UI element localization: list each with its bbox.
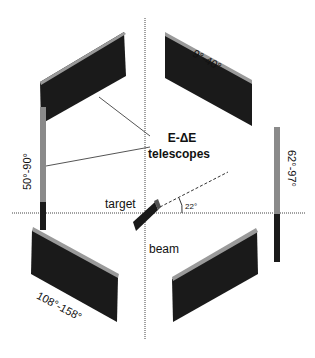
detector-right-vertical (274, 127, 280, 262)
pointer-line-upper (99, 97, 150, 136)
target-label: target (105, 198, 136, 210)
detector-top-right (165, 32, 252, 126)
detector-right-vertical-label: 62°-97° (286, 150, 297, 187)
angle-label: 22° (185, 203, 197, 211)
detector-left-vertical-label: 50°-90° (22, 153, 33, 190)
telescopes-label-line1: E-ΔE (152, 132, 212, 144)
detector-bottom-right (172, 228, 258, 322)
pointer-line-lower (46, 147, 150, 166)
beam-label: beam (149, 243, 179, 255)
target (133, 199, 161, 231)
telescopes-label-line2: telescopes (148, 148, 210, 160)
angle-arc (179, 198, 182, 213)
detector-top-left (40, 32, 126, 124)
detector-setup-diagram: E-ΔE telescopes target beam 22° 9°-40° 5… (0, 0, 315, 358)
detector-left-vertical (40, 107, 46, 230)
